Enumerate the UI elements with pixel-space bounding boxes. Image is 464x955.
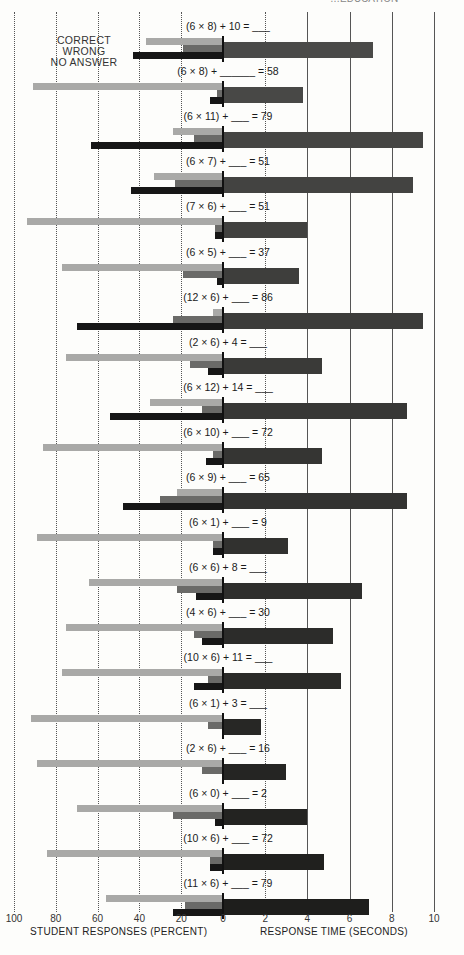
response-time-bar [223, 358, 322, 374]
correct-bar [37, 534, 223, 541]
legend: CORRECT WRONG NO ANSWER [38, 35, 130, 68]
no-answer-bar [77, 323, 223, 330]
gridline-left-100 [14, 12, 15, 912]
problem-label: (10 × 6) + ___ = 72 [183, 832, 273, 844]
zero-axis-tick [222, 171, 224, 197]
problem-label: (6 × 12) + 14 = ___ [183, 381, 273, 393]
correct-bar [177, 489, 223, 496]
response-time-bar [223, 719, 261, 735]
response-time-bar [223, 538, 288, 554]
correct-bar [37, 760, 223, 767]
response-time-bar [223, 177, 413, 193]
zero-axis-tick [222, 848, 224, 874]
problem-label: (6 × 11) + ___ = 79 [184, 110, 273, 122]
response-time-bar [223, 448, 322, 464]
wrong-bar [194, 135, 223, 142]
zero-axis-tick [222, 667, 224, 693]
no-answer-bar [194, 683, 223, 690]
tick-right-8: 8 [389, 913, 395, 924]
wrong-bar [202, 767, 223, 774]
no-answer-bar [110, 413, 223, 420]
wrong-bar [194, 631, 223, 638]
response-time-bar [223, 42, 373, 58]
problem-label: (12 × 6) + ___ = 86 [183, 291, 273, 303]
response-time-bar [223, 583, 362, 599]
problem-label: (6 × 8) + 10 = ___ [186, 20, 270, 32]
tick-left-60: 60 [92, 913, 103, 924]
problem-label: (6 × 5) + ___ = 37 [186, 246, 270, 258]
correct-bar [27, 218, 223, 225]
problem-label: (4 × 6) + ___ = 30 [186, 606, 270, 618]
no-answer-bar [196, 593, 223, 600]
zero-axis-tick [222, 622, 224, 648]
response-time-bar [223, 493, 407, 509]
correct-bar [43, 444, 223, 451]
wrong-bar [183, 45, 223, 52]
tick-right-2: 2 [262, 913, 268, 924]
zero-axis-tick [222, 216, 224, 242]
wrong-bar [202, 406, 223, 413]
no-answer-bar [91, 142, 223, 149]
zero-axis-tick [222, 532, 224, 558]
problem-label: (2 × 6) + ___ = 16 [186, 742, 270, 754]
problem-label: (6 × 0) + ___ = 2 [189, 787, 267, 799]
tick-left-40: 40 [134, 913, 145, 924]
zero-axis-tick [222, 577, 224, 603]
problem-label: (6 × 1) + 3 = ___ [189, 697, 267, 709]
correct-bar [33, 83, 223, 90]
response-time-bar [223, 403, 407, 419]
correct-bar [173, 128, 223, 135]
correct-bar [77, 805, 223, 812]
zero-axis-tick [222, 487, 224, 513]
zero-axis-tick [222, 442, 224, 468]
no-answer-bar [133, 52, 223, 59]
response-time-bar [223, 628, 333, 644]
wrong-bar [175, 180, 223, 187]
correct-bar [89, 579, 223, 586]
tick-right-10: 10 [428, 913, 439, 924]
problem-label: (2 × 6) + 4 = ___ [189, 336, 267, 348]
correct-bar [146, 38, 223, 45]
problem-label: (6 × 9) + ___ = 65 [186, 471, 270, 483]
left-axis-title: STUDENT RESPONSES (PERCENT) [30, 926, 207, 937]
response-time-bar [223, 87, 303, 103]
no-answer-bar [202, 638, 223, 645]
zero-axis-tick [222, 307, 224, 333]
response-chart: …EDUCATION CORRECT WRONG NO ANSWER (6 × … [0, 0, 464, 955]
wrong-bar [208, 676, 223, 683]
problem-label: (6 × 7) + ___ = 51 [186, 155, 270, 167]
response-time-bar [223, 854, 324, 870]
response-time-bar [223, 222, 307, 238]
zero-axis-tick [222, 352, 224, 378]
zero-axis-tick [222, 758, 224, 784]
zero-axis-tick [222, 803, 224, 829]
zero-axis-tick [222, 262, 224, 288]
correct-bar [66, 624, 223, 631]
problem-label: (6 × 1) + ___ = 9 [189, 516, 267, 528]
zero-axis-tick [222, 397, 224, 423]
response-time-bar [223, 764, 286, 780]
no-answer-bar [208, 368, 223, 375]
response-time-bar [223, 673, 341, 689]
running-head-fragment: …EDUCATION [330, 0, 398, 3]
problem-label: (11 × 6) + ___ = 79 [184, 877, 273, 889]
wrong-bar [173, 316, 223, 323]
legend-no-answer: NO ANSWER [38, 57, 130, 68]
wrong-bar [177, 586, 223, 593]
response-time-bar [223, 132, 423, 148]
tick-right-4: 4 [305, 913, 311, 924]
wrong-bar [183, 271, 223, 278]
problem-label: (6 × 10) + ___ = 72 [183, 426, 273, 438]
correct-bar [150, 399, 223, 406]
correct-bar [62, 669, 223, 676]
wrong-bar [190, 361, 223, 368]
correct-bar [47, 850, 223, 857]
zero-axis-tick [222, 713, 224, 739]
response-time-bar [223, 268, 299, 284]
zero-axis-tick [222, 126, 224, 152]
zero-axis-tick [222, 36, 224, 62]
zero-axis-tick [222, 81, 224, 107]
gridline-right-10 [434, 12, 435, 912]
tick-right-6: 6 [347, 913, 353, 924]
correct-bar [154, 173, 223, 180]
